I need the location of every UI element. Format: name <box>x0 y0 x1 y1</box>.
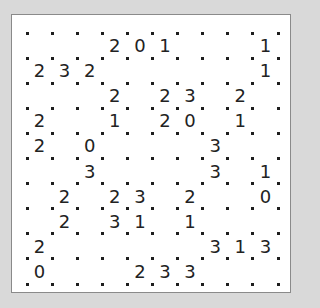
puzzle-cell[interactable]: 3 <box>253 234 278 259</box>
puzzle-cell[interactable] <box>127 133 152 158</box>
puzzle-cell[interactable]: 2 <box>102 83 127 108</box>
puzzle-cell[interactable] <box>27 209 52 234</box>
puzzle-cell[interactable]: 3 <box>178 259 203 284</box>
puzzle-cell[interactable] <box>102 58 127 83</box>
puzzle-cell[interactable] <box>127 108 152 133</box>
puzzle-cell[interactable]: 3 <box>52 58 77 83</box>
puzzle-cell[interactable] <box>153 133 178 158</box>
puzzle-cell[interactable] <box>153 234 178 259</box>
puzzle-cell[interactable] <box>153 159 178 184</box>
puzzle-cell[interactable]: 0 <box>27 259 52 284</box>
puzzle-cell[interactable]: 3 <box>102 209 127 234</box>
puzzle-cell[interactable] <box>127 83 152 108</box>
puzzle-cell[interactable] <box>228 33 253 58</box>
puzzle-cell[interactable]: 3 <box>203 234 228 259</box>
puzzle-cell[interactable]: 2 <box>52 209 77 234</box>
puzzle-cell[interactable] <box>203 259 228 284</box>
puzzle-cell[interactable] <box>52 234 77 259</box>
puzzle-cell[interactable]: 1 <box>127 209 152 234</box>
puzzle-cell[interactable]: 3 <box>178 83 203 108</box>
puzzle-cell[interactable]: 2 <box>153 108 178 133</box>
puzzle-cell[interactable] <box>253 83 278 108</box>
puzzle-cell[interactable]: 3 <box>203 133 228 158</box>
puzzle-cell[interactable] <box>77 108 102 133</box>
puzzle-cell[interactable] <box>52 259 77 284</box>
puzzle-cell[interactable] <box>102 259 127 284</box>
puzzle-cell[interactable]: 2 <box>77 58 102 83</box>
puzzle-cell[interactable] <box>253 108 278 133</box>
puzzle-cell[interactable] <box>228 159 253 184</box>
puzzle-cell[interactable] <box>27 159 52 184</box>
puzzle-cell[interactable] <box>228 133 253 158</box>
puzzle-cell[interactable]: 3 <box>127 184 152 209</box>
puzzle-cell[interactable] <box>102 159 127 184</box>
puzzle-cell[interactable]: 2 <box>27 108 52 133</box>
puzzle-cell[interactable]: 1 <box>153 33 178 58</box>
puzzle-cell[interactable]: 0 <box>77 133 102 158</box>
puzzle-cell[interactable] <box>153 58 178 83</box>
puzzle-cell[interactable] <box>102 234 127 259</box>
puzzle-cell[interactable]: 2 <box>27 58 52 83</box>
puzzle-cell[interactable]: 1 <box>178 209 203 234</box>
puzzle-cell[interactable]: 1 <box>228 108 253 133</box>
puzzle-cell[interactable] <box>228 58 253 83</box>
puzzle-cell[interactable] <box>77 184 102 209</box>
puzzle-cell[interactable] <box>253 259 278 284</box>
puzzle-cell[interactable] <box>52 159 77 184</box>
puzzle-cell[interactable]: 2 <box>127 259 152 284</box>
puzzle-cell[interactable] <box>27 184 52 209</box>
puzzle-cell[interactable] <box>203 108 228 133</box>
puzzle-cell[interactable]: 0 <box>253 184 278 209</box>
puzzle-cell[interactable] <box>253 133 278 158</box>
puzzle-cell[interactable]: 1 <box>253 33 278 58</box>
puzzle-cell[interactable] <box>77 259 102 284</box>
puzzle-cell[interactable]: 3 <box>203 159 228 184</box>
puzzle-cell[interactable] <box>178 58 203 83</box>
puzzle-cell[interactable]: 1 <box>253 58 278 83</box>
puzzle-cell[interactable]: 1 <box>102 108 127 133</box>
puzzle-cell[interactable] <box>228 259 253 284</box>
puzzle-cell[interactable]: 3 <box>77 159 102 184</box>
puzzle-cell[interactable] <box>127 234 152 259</box>
puzzle-cell[interactable]: 2 <box>102 33 127 58</box>
puzzle-cell[interactable]: 2 <box>102 184 127 209</box>
puzzle-cell[interactable]: 2 <box>27 234 52 259</box>
puzzle-cell[interactable]: 0 <box>178 108 203 133</box>
puzzle-cell[interactable] <box>77 234 102 259</box>
puzzle-cell[interactable] <box>52 83 77 108</box>
puzzle-cell[interactable] <box>178 159 203 184</box>
puzzle-cell[interactable] <box>153 184 178 209</box>
puzzle-cell[interactable] <box>178 133 203 158</box>
puzzle-cell[interactable] <box>77 33 102 58</box>
puzzle-cell[interactable]: 2 <box>178 184 203 209</box>
puzzle-cell[interactable] <box>77 83 102 108</box>
puzzle-cell[interactable] <box>52 33 77 58</box>
puzzle-cell[interactable] <box>52 133 77 158</box>
puzzle-cell[interactable] <box>203 33 228 58</box>
puzzle-cell[interactable]: 2 <box>27 133 52 158</box>
puzzle-cell[interactable] <box>203 83 228 108</box>
puzzle-cell[interactable]: 1 <box>253 159 278 184</box>
puzzle-cell[interactable] <box>52 108 77 133</box>
puzzle-cell[interactable]: 2 <box>52 184 77 209</box>
puzzle-cell[interactable] <box>77 209 102 234</box>
puzzle-cell[interactable]: 2 <box>228 83 253 108</box>
puzzle-cell[interactable]: 2 <box>153 83 178 108</box>
puzzle-cell[interactable] <box>203 58 228 83</box>
puzzle-cell[interactable] <box>27 33 52 58</box>
puzzle-cell[interactable] <box>127 58 152 83</box>
puzzle-cell[interactable] <box>253 209 278 234</box>
puzzle-cell[interactable] <box>178 234 203 259</box>
puzzle-cell[interactable]: 3 <box>153 259 178 284</box>
puzzle-cell[interactable] <box>228 209 253 234</box>
puzzle-cell[interactable]: 1 <box>228 234 253 259</box>
puzzle-cell[interactable] <box>203 209 228 234</box>
puzzle-cell[interactable] <box>228 184 253 209</box>
puzzle-cell[interactable] <box>102 133 127 158</box>
puzzle-cell[interactable] <box>203 184 228 209</box>
puzzle-cell[interactable] <box>127 159 152 184</box>
puzzle-cell[interactable] <box>27 83 52 108</box>
puzzle-cell[interactable] <box>178 33 203 58</box>
puzzle-cell[interactable] <box>153 209 178 234</box>
puzzle-cell[interactable]: 0 <box>127 33 152 58</box>
